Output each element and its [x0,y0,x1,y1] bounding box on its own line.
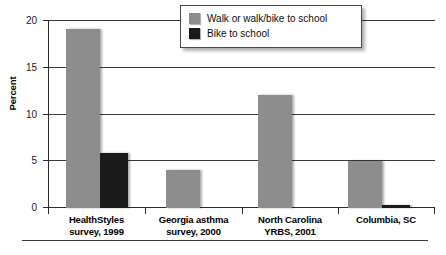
y-tick-label-15: 15 [0,62,37,73]
legend-swatch-bike-icon [189,28,200,39]
x-label-columbia-line1: Columbia, SC [338,214,434,226]
y-tick-label-10: 10 [0,109,37,120]
bar-walk-georgia[interactable] [166,170,200,208]
x-label-healthstyles-line1: HealthStyles [48,214,145,226]
footer-caption [22,247,428,255]
x-label-georgia-line1: Georgia asthma [145,214,242,226]
x-label-north-carolina: North Carolina YRBS, 2001 [242,214,338,238]
legend-item-walk[interactable]: Walk or walk/bike to school [189,11,355,26]
footer-divider [22,240,428,241]
legend-swatch-walk-icon [189,13,200,24]
x-label-georgia-line2: survey, 2000 [145,226,242,238]
x-label-healthstyles-line2: survey, 1999 [48,226,145,238]
chart-figure: Percent 20 15 10 5 0 HealthStyles survey… [0,0,446,255]
y-tick-label-20: 20 [0,15,37,26]
x-label-columbia: Columbia, SC [338,214,434,226]
x-label-north-carolina-line2: YRBS, 2001 [242,226,338,238]
bar-walk-north-carolina[interactable] [258,95,292,208]
legend-label-walk: Walk or walk/bike to school [207,13,327,24]
y-tick-label-0: 0 [0,202,37,213]
legend-item-bike[interactable]: Bike to school [189,26,355,41]
bar-walk-healthstyles[interactable] [66,29,100,208]
y-tick-label-5: 5 [0,155,37,166]
x-label-north-carolina-line1: North Carolina [242,214,338,226]
x-tick-mark-4 [434,208,435,214]
plot-area [48,20,435,208]
bar-bike-columbia[interactable] [382,205,410,208]
legend-label-bike: Bike to school [207,28,269,39]
chart-legend: Walk or walk/bike to school Bike to scho… [180,5,362,48]
x-label-healthstyles: HealthStyles survey, 1999 [48,214,145,238]
bar-bike-healthstyles[interactable] [100,153,128,209]
x-label-georgia: Georgia asthma survey, 2000 [145,214,242,238]
bar-walk-columbia[interactable] [348,161,382,208]
